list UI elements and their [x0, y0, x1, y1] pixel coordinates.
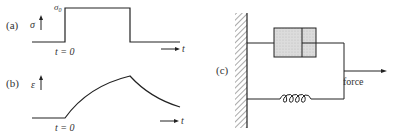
panel-a-label: (a): [6, 19, 19, 32]
spring: [247, 94, 344, 102]
strain-creep-recovery-curve: [32, 76, 180, 118]
panel-b-label: (b): [6, 77, 19, 90]
panel-a-t0-label: t = 0: [55, 46, 75, 57]
viscoelastic-diagram: (a) σ σ0 t = 0 t (b) ε t = 0 t (c): [0, 0, 399, 137]
panel-b-t-axis-label: t: [181, 115, 184, 126]
panel-b-strain-graph: (b) ε t = 0 t: [6, 75, 184, 133]
time-arrow-icon: [161, 47, 180, 51]
panel-a-stress-graph: (a) σ σ0 t = 0 t: [6, 2, 185, 57]
sigma-up-arrow-icon: [39, 15, 43, 30]
panel-c-label: (c): [216, 64, 229, 77]
dashpot: [247, 28, 344, 57]
panel-a-t-axis-label: t: [182, 43, 185, 54]
epsilon-axis-label: ε: [31, 79, 35, 90]
force-arrow-icon: [344, 69, 387, 73]
panel-c-kelvin-voigt-model: (c) force: [216, 13, 387, 128]
epsilon-up-arrow-icon: [39, 75, 43, 90]
stress-step-curve: [32, 8, 180, 42]
fixed-wall: [235, 13, 247, 128]
sigma0-label: σ0: [54, 2, 61, 13]
panel-b-t0-label: t = 0: [55, 122, 75, 133]
sigma-axis-label: σ: [30, 19, 36, 30]
force-label: force: [343, 76, 364, 87]
time-arrow-icon: [160, 119, 179, 123]
